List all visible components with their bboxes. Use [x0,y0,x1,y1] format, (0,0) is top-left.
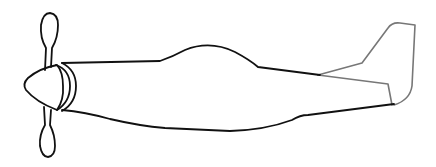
tail-fin [318,23,415,105]
propeller-blade-top [41,13,58,70]
airplane-svg [0,0,436,167]
airplane-drawing: airplane line drawing [0,0,436,167]
propeller-spinner [24,65,63,110]
propeller-blade-bottom [40,107,55,157]
cowling [56,63,76,111]
fuselage [62,45,394,131]
